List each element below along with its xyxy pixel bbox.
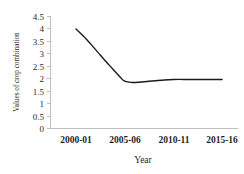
chart-container: 4.5 4 3.5 3 2.5 2 1.5 1 0.5 0 Values of … <box>0 0 244 174</box>
y-tick-label: 0 <box>40 124 45 134</box>
y-tick-label: 4 <box>40 24 45 34</box>
y-tick-label: 0.5 <box>33 112 45 122</box>
line-chart: 4.5 4 3.5 3 2.5 2 1.5 1 0.5 0 Values of … <box>0 0 244 174</box>
y-tick-label: 3.5 <box>33 37 45 47</box>
x-tick-label: 2005-06 <box>109 135 141 145</box>
x-tick-label: 2010-11 <box>158 135 189 145</box>
y-tick-label: 1.5 <box>33 87 45 97</box>
x-tick-label: 2015-16 <box>206 135 238 145</box>
y-tick-label: 2.5 <box>33 62 45 72</box>
y-tick-label: 3 <box>40 49 45 59</box>
y-axis-title: Values of crop combination <box>13 32 21 112</box>
y-tick-label: 1 <box>40 99 45 109</box>
x-axis-title: Year <box>134 155 152 165</box>
y-tick-label: 4.5 <box>33 12 45 22</box>
x-tick-label: 2000-01 <box>60 135 92 145</box>
y-tick-label: 2 <box>40 74 45 84</box>
